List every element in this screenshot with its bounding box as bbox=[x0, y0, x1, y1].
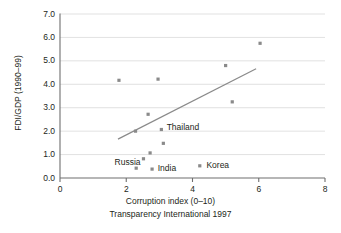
axis-ticks bbox=[60, 178, 325, 182]
point-annotation-russia: Russia bbox=[115, 157, 141, 167]
y-axis-title: FDI/GDP (1990–99) bbox=[7, 23, 25, 163]
y-tick-label: 1.0 bbox=[29, 149, 55, 159]
y-tick-label: 6.0 bbox=[29, 32, 55, 42]
point-annotation-korea: Korea bbox=[206, 160, 229, 170]
x-axis-subtitle: Transparency International 1997 bbox=[0, 209, 341, 219]
x-axis-title: Corruption index (0–10) bbox=[0, 196, 341, 206]
x-tick-label: 2 bbox=[116, 184, 136, 194]
x-tick-label: 8 bbox=[315, 184, 335, 194]
x-tick-label: 6 bbox=[249, 184, 269, 194]
point-annotation-thailand: Thailand bbox=[167, 122, 200, 132]
axis-lines bbox=[60, 14, 325, 179]
y-tick-label: 2.0 bbox=[29, 126, 55, 136]
y-tick-label: 4.0 bbox=[29, 79, 55, 89]
gridlines bbox=[60, 14, 325, 155]
y-tick-label: 7.0 bbox=[29, 9, 55, 19]
scatter-chart-figure: FDI/GDP (1990–99) Corruption index (0–10… bbox=[0, 0, 341, 233]
y-axis-title-text: FDI/GDP (1990–99) bbox=[13, 55, 23, 130]
x-tick-label: 4 bbox=[183, 184, 203, 194]
point-annotation-india: India bbox=[158, 163, 176, 173]
x-tick-label: 0 bbox=[50, 184, 70, 194]
y-tick-label: 0.0 bbox=[29, 173, 55, 183]
y-tick-label: 3.0 bbox=[29, 102, 55, 112]
y-tick-label: 5.0 bbox=[29, 55, 55, 65]
